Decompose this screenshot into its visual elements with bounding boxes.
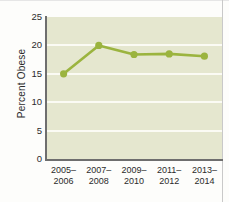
y-tick-label-5: 5 xyxy=(20,126,42,136)
x-axis-line xyxy=(45,159,223,161)
series-path xyxy=(64,45,205,73)
x-tick-label-line: 2013– xyxy=(182,165,226,176)
data-point-2011–2012 xyxy=(166,50,173,57)
data-point-2007–2008 xyxy=(95,42,102,49)
data-point-2009–2010 xyxy=(130,51,137,58)
data-point-2005–2006 xyxy=(60,70,67,77)
y-tick-label-0: 0 xyxy=(20,154,42,164)
x-tick-label-line: 2014 xyxy=(182,176,226,187)
y-axis-line xyxy=(45,16,47,161)
x-tick-label-2013–2014: 2013–2014 xyxy=(182,165,226,187)
figure-top-border xyxy=(0,0,229,1)
y-tick-label-20: 20 xyxy=(20,40,42,50)
y-tick-label-15: 15 xyxy=(20,69,42,79)
y-tick-label-25: 25 xyxy=(20,12,42,22)
chart-figure: Percent Obese 05101520252005–20062007–20… xyxy=(0,0,229,202)
data-point-2013–2014 xyxy=(201,53,208,60)
plot-area xyxy=(46,17,222,159)
series-line-percent-obese xyxy=(46,17,222,159)
y-tick-label-10: 10 xyxy=(20,97,42,107)
